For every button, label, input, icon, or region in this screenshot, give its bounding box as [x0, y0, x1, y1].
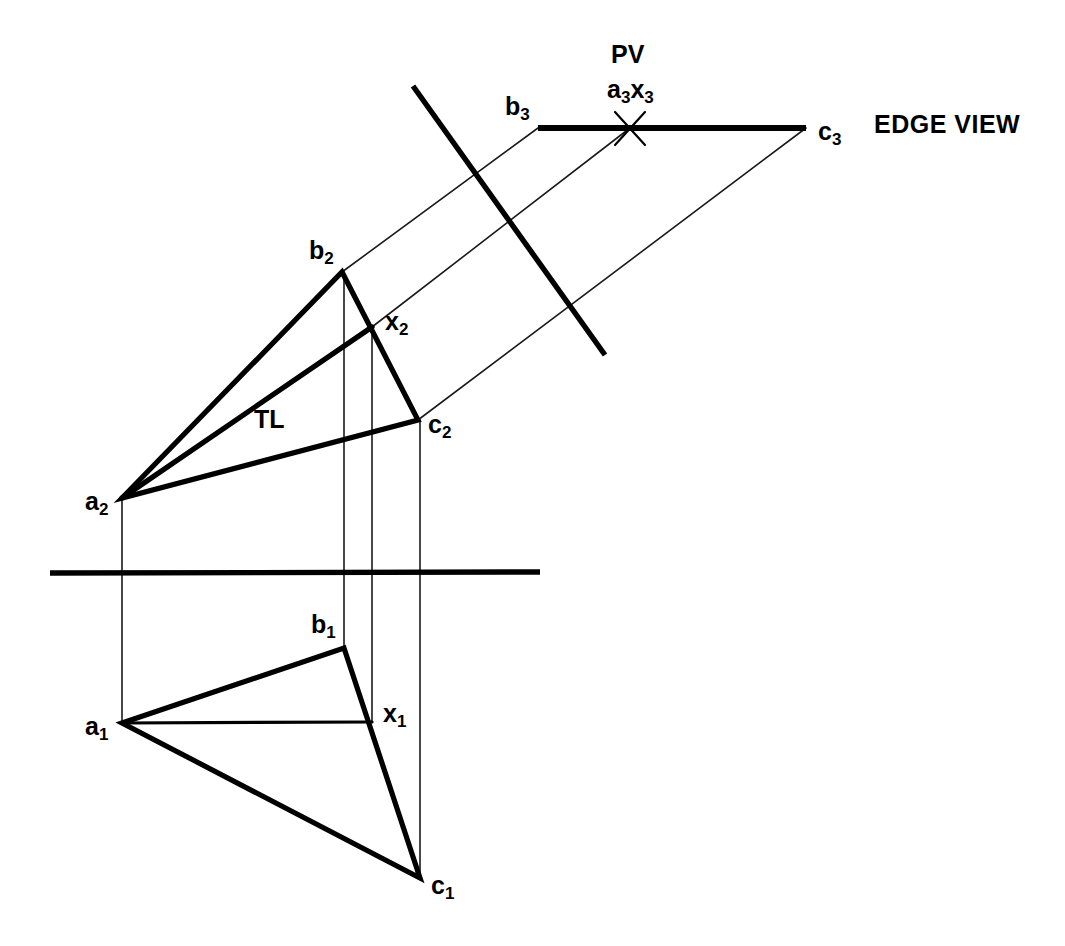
tl-line-top-view: [122, 722, 372, 723]
tl-line-front-view: [122, 327, 372, 498]
label-a1-base: a: [85, 712, 99, 740]
technical-drawing-canvas: PV a3x3 b3 c3 EDGE VIEW b2 x2 c2 a2 TL b…: [0, 0, 1065, 946]
label-c1-base: c: [431, 871, 445, 899]
label-b3-sub: 3: [520, 105, 529, 124]
auxiliary-projector-b: [342, 128, 538, 272]
label-tl: TL: [254, 407, 285, 432]
label-a3x3-x-sub: 3: [644, 88, 653, 107]
label-pv: PV: [611, 42, 644, 67]
label-a2-base: a: [85, 487, 99, 515]
geometry-svg: [0, 0, 1065, 946]
label-x2-base: x: [385, 307, 399, 335]
label-b1-base: b: [311, 610, 326, 638]
label-a3x3-x: x: [630, 75, 644, 103]
label-a3x3-a: a: [607, 75, 621, 103]
label-b1: b1: [311, 612, 336, 637]
label-x1-sub: 1: [397, 712, 406, 731]
label-c1: c1: [431, 873, 454, 898]
label-c1-sub: 1: [445, 884, 454, 903]
label-a1-sub: 1: [99, 725, 108, 744]
label-b3-base: b: [505, 92, 520, 120]
label-a3x3: a3x3: [607, 77, 654, 102]
label-b2: b2: [309, 238, 334, 263]
label-x2: x2: [385, 309, 408, 334]
label-a1: a1: [85, 714, 108, 739]
label-a2: a2: [85, 489, 108, 514]
label-x1-base: x: [383, 699, 397, 727]
label-x2-sub: 2: [399, 320, 408, 339]
triangle-front-view: [122, 272, 418, 498]
fold-line-horizontal: [50, 572, 540, 573]
auxiliary-projector-x: [372, 128, 630, 327]
label-c2: c2: [428, 412, 451, 437]
label-c2-base: c: [428, 410, 442, 438]
projector-line-group: [122, 128, 806, 878]
label-c3-base: c: [818, 117, 832, 145]
label-c2-sub: 2: [442, 423, 451, 442]
label-c3: c3: [818, 119, 841, 144]
label-a3x3-a-sub: 3: [621, 88, 630, 107]
label-b1-sub: 1: [326, 623, 335, 642]
label-b3: b3: [505, 94, 530, 119]
triangle-top-view: [122, 648, 420, 878]
label-c3-sub: 3: [832, 130, 841, 149]
label-b2-base: b: [309, 236, 324, 264]
label-b2-sub: 2: [324, 249, 333, 268]
label-edge-view: EDGE VIEW: [874, 112, 1020, 137]
label-a2-sub: 2: [99, 500, 108, 519]
label-x1: x1: [383, 701, 406, 726]
